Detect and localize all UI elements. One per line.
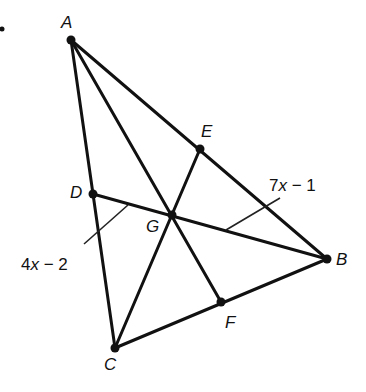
point-A: [67, 36, 76, 45]
label-G: G: [146, 218, 159, 235]
point-E: [196, 145, 205, 154]
point-D: [89, 190, 98, 199]
expr-GB-var: x: [278, 176, 287, 195]
leader-line-GB: [226, 198, 280, 230]
label-F: F: [225, 314, 235, 331]
label-A: A: [61, 14, 72, 31]
label-B: B: [336, 251, 347, 268]
expr-DG-var: x: [30, 255, 39, 274]
label-C: C: [104, 356, 116, 373]
point-C: [111, 344, 120, 353]
label-D: D: [70, 184, 82, 201]
expr-GB-rest: − 1: [287, 176, 316, 195]
leader-line-DG: [84, 205, 128, 244]
point-B: [323, 255, 332, 264]
triangle-figure: [0, 0, 366, 392]
median-BD: [93, 194, 327, 259]
point-G: [168, 211, 177, 220]
geometry-diagram: A B C D E F G 4x − 2 7x − 1: [0, 0, 366, 392]
expression-GB: 7x − 1: [269, 177, 316, 194]
label-E: E: [201, 123, 212, 140]
median-AF: [71, 40, 221, 302]
point-F: [217, 298, 226, 307]
expr-DG-rest: − 2: [39, 255, 68, 274]
bullet-dot: [0, 27, 5, 32]
expression-DG: 4x − 2: [21, 256, 68, 273]
